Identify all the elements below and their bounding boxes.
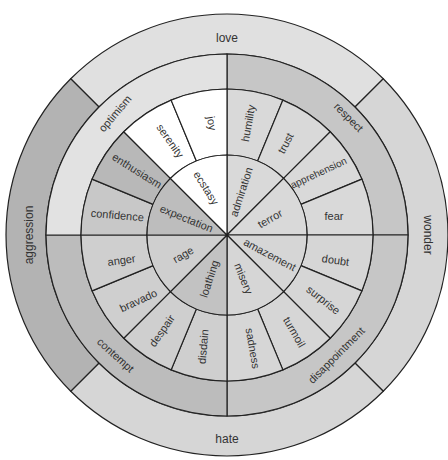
outer-label-love: love — [216, 31, 238, 45]
middle-label-fear: fear — [325, 210, 344, 222]
outer-label-aggression: aggression — [22, 206, 36, 265]
outer-label-wonder: wonder — [421, 214, 435, 254]
outer-label-hate: hate — [215, 432, 239, 446]
emotion-wheel: love wonder hate aggression optimism res… — [0, 0, 448, 460]
wheel-segments — [6, 14, 448, 456]
